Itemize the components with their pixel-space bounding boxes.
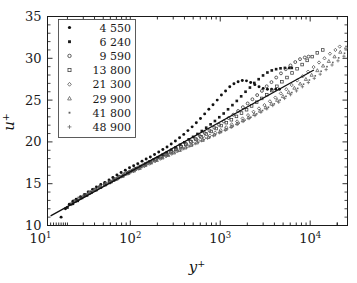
data-point-filled-square: [68, 40, 71, 43]
legend-label: 41 800: [93, 107, 132, 120]
data-point-filled-circle: [174, 140, 177, 143]
data-point-small-dot: [144, 165, 146, 167]
data-point-filled-circle: [120, 171, 123, 174]
y-axis-title-base: u: [0, 121, 18, 131]
data-point-small-dot: [344, 52, 346, 54]
data-point-small-dot: [232, 125, 234, 127]
data-point-small-dot: [326, 66, 328, 68]
velocity-profile-chart: 101102103104 101520253035 u+ y+ 4 5506 2…: [0, 0, 357, 283]
y-tick-label: 25: [25, 93, 42, 108]
data-point-filled-square: [249, 86, 252, 89]
data-point-small-dot: [186, 147, 188, 149]
data-point-filled-square: [279, 67, 282, 70]
data-point-filled-circle: [153, 153, 156, 156]
data-point-small-dot: [69, 112, 71, 114]
data-point-filled-circle: [136, 162, 139, 165]
data-point-small-dot: [97, 187, 99, 189]
data-point-filled-circle: [161, 148, 164, 151]
data-point-small-dot: [191, 144, 193, 146]
data-point-filled-circle: [228, 85, 231, 88]
data-point-small-dot: [180, 149, 182, 151]
data-point-small-dot: [215, 134, 217, 136]
y-tick-label: 30: [25, 51, 42, 66]
data-point-small-dot: [209, 137, 211, 139]
data-point-filled-square: [266, 71, 269, 74]
data-point-filled-circle: [237, 80, 240, 83]
data-point-filled-square: [214, 120, 217, 123]
data-point-small-dot: [314, 75, 316, 77]
legend-label: 9 590: [100, 50, 132, 63]
data-point-filled-circle: [128, 166, 131, 169]
data-point-filled-circle: [266, 88, 269, 91]
data-point-filled-circle: [132, 164, 135, 167]
data-point-small-dot: [268, 106, 270, 108]
data-point-small-dot: [303, 83, 305, 85]
data-point-filled-circle: [182, 133, 185, 136]
y-tick-label: 35: [25, 9, 42, 24]
data-point-filled-circle: [178, 136, 181, 139]
data-point-small-dot: [150, 162, 152, 164]
data-point-small-dot: [162, 157, 164, 159]
data-point-small-dot: [156, 159, 158, 161]
data-point-filled-circle: [141, 160, 144, 163]
data-point-filled-circle: [68, 26, 71, 29]
data-point-small-dot: [338, 57, 340, 59]
data-point-filled-square: [270, 69, 273, 72]
data-point-filled-circle: [245, 79, 248, 82]
data-point-filled-circle: [241, 79, 244, 82]
data-point-filled-square: [231, 104, 234, 107]
y-axis-title-superscript: +: [0, 113, 11, 121]
data-point-filled-circle: [191, 125, 194, 128]
x-axis-title-superscript: +: [197, 258, 205, 269]
data-point-filled-square: [275, 68, 278, 71]
data-point-small-dot: [197, 142, 199, 144]
data-point-filled-circle: [212, 103, 215, 106]
data-point-filled-circle: [249, 81, 252, 84]
data-point-filled-square: [209, 123, 212, 126]
data-point-small-dot: [279, 99, 281, 101]
data-point-small-dot: [250, 116, 252, 118]
data-point-small-dot: [273, 103, 275, 105]
data-point-small-dot: [168, 154, 170, 156]
data-point-filled-circle: [149, 155, 152, 158]
y-tick-label: 15: [25, 176, 42, 191]
data-point-small-dot: [285, 96, 287, 98]
data-point-filled-circle: [186, 129, 189, 132]
data-point-filled-circle: [166, 145, 169, 148]
data-point-filled-square: [253, 82, 256, 85]
data-point-small-dot: [262, 110, 264, 112]
legend-label: 6 240: [100, 36, 132, 49]
data-point-small-dot: [320, 70, 322, 72]
data-point-small-dot: [332, 62, 334, 64]
data-point-small-dot: [203, 139, 205, 141]
data-point-filled-square: [257, 78, 260, 81]
data-point-filled-circle: [199, 117, 202, 120]
data-point-filled-circle: [224, 89, 227, 92]
data-point-filled-circle: [145, 158, 148, 161]
y-tick-label: 10: [25, 218, 42, 233]
legend-label: 21 300: [93, 78, 132, 91]
data-point-small-dot: [174, 152, 176, 154]
data-point-small-dot: [291, 92, 293, 94]
legend-label: 29 900: [93, 93, 132, 106]
data-point-small-dot: [227, 128, 229, 130]
data-point-small-dot: [244, 119, 246, 121]
data-point-filled-square: [222, 112, 225, 115]
data-point-filled-square: [240, 95, 243, 98]
data-point-small-dot: [256, 113, 258, 115]
figure-container: 101102103104 101520253035 u+ y+ 4 5506 2…: [0, 0, 357, 283]
data-point-filled-circle: [258, 85, 261, 88]
data-point-filled-circle: [60, 216, 63, 219]
data-point-filled-square: [227, 108, 230, 111]
data-point-filled-circle: [157, 150, 160, 153]
data-point-filled-circle: [216, 99, 219, 102]
legend-label: 48 900: [93, 121, 132, 134]
data-point-small-dot: [297, 88, 299, 90]
data-point-filled-circle: [207, 108, 210, 111]
data-point-small-dot: [309, 79, 311, 81]
data-point-filled-circle: [170, 143, 173, 146]
y-tick-label: 20: [25, 134, 42, 149]
data-point-filled-square: [218, 116, 221, 119]
data-point-small-dot: [92, 190, 94, 192]
data-point-filled-square: [262, 74, 265, 77]
